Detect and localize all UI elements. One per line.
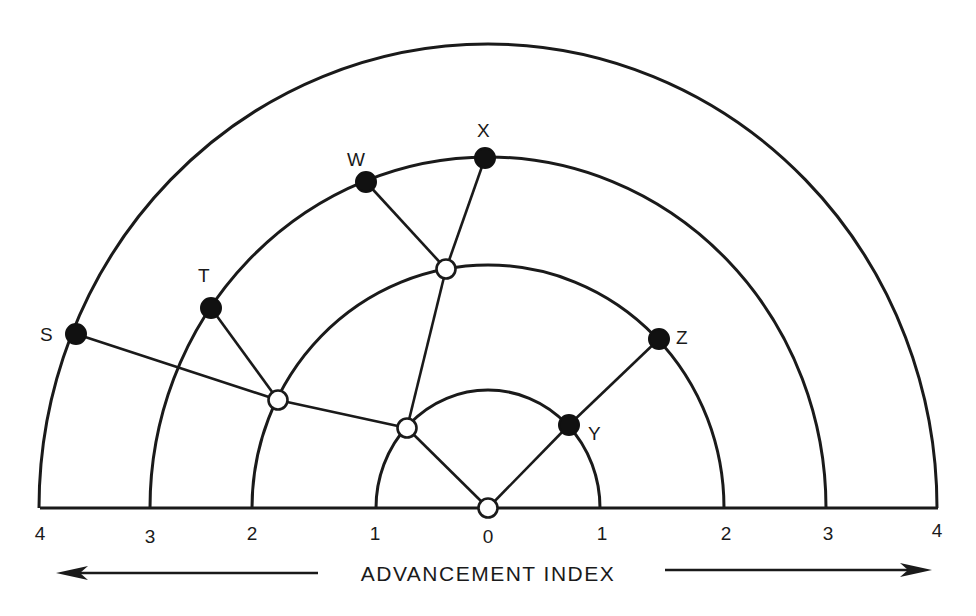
concentric-rings	[39, 44, 937, 508]
node-label-X: X	[477, 120, 490, 141]
node-label-Z: Z	[676, 327, 688, 348]
ring-2	[252, 265, 724, 508]
node-labels: STWXYZ	[40, 120, 688, 444]
edge-n1-n2	[278, 400, 407, 428]
ring-1	[376, 390, 600, 508]
edge-n3-W	[366, 182, 446, 269]
taxon-node-Y	[559, 415, 579, 435]
edge-n3-X	[446, 158, 485, 269]
taxon-node-X	[475, 148, 495, 168]
ancestor-node-n3	[437, 260, 456, 279]
tick-label-6: 2	[721, 523, 732, 544]
tick-label-1: 3	[145, 526, 156, 547]
edge-n1-n3	[407, 269, 446, 428]
ancestor-node-n1	[398, 419, 417, 438]
tick-label-4: 0	[483, 526, 494, 547]
right-arrow	[665, 563, 932, 577]
tick-label-2: 2	[247, 523, 258, 544]
tick-label-7: 3	[823, 523, 834, 544]
left-arrow	[56, 566, 318, 580]
ring-3	[150, 157, 826, 508]
edge-n2-S	[76, 334, 278, 400]
node-label-Y: Y	[588, 423, 601, 444]
edge-Y-Z	[569, 339, 659, 425]
edge-root-n1	[407, 428, 488, 508]
tick-label-0: 4	[35, 523, 46, 544]
ring-4	[39, 44, 937, 508]
tick-label-5: 1	[597, 523, 608, 544]
tick-label-8: 4	[932, 520, 943, 541]
edge-n2-T	[211, 308, 278, 400]
phylogeny-diagram: STWXYZ 432101234 ADVANCEMENT INDEX	[0, 0, 976, 616]
taxon-node-Z	[649, 329, 669, 349]
ancestor-node-n2	[269, 391, 288, 410]
taxon-node-W	[356, 172, 376, 192]
tree-nodes	[66, 148, 669, 518]
ancestor-node-root	[479, 499, 498, 518]
tick-labels: 432101234	[35, 520, 943, 547]
edge-root-Y	[488, 425, 569, 508]
tick-label-3: 1	[370, 523, 381, 544]
axis-title: ADVANCEMENT INDEX	[361, 562, 616, 585]
node-label-W: W	[347, 149, 365, 170]
node-label-S: S	[40, 324, 53, 345]
taxon-node-S	[66, 324, 86, 344]
taxon-node-T	[201, 298, 221, 318]
tree-edges	[76, 158, 659, 508]
node-label-T: T	[198, 265, 210, 286]
